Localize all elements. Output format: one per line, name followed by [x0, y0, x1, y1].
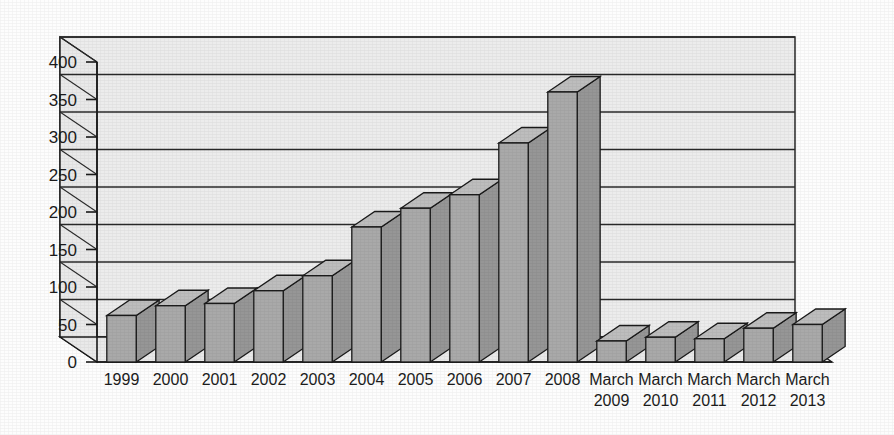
y-tick-label: 350 [49, 91, 77, 110]
x-axis-labels: 1999200020012002200320042005200620072008… [104, 371, 830, 409]
x-tick-label: 2010 [643, 392, 679, 409]
x-tick-label: 2011 [692, 392, 727, 409]
y-tick-label: 200 [49, 203, 77, 222]
y-tick-label: 0 [68, 353, 77, 372]
bar-front-face [499, 143, 528, 362]
bar-front-face [107, 316, 136, 363]
x-tick-label: 2008 [545, 371, 581, 388]
bar-column[interactable] [303, 260, 355, 362]
bar-front-face [450, 195, 479, 362]
y-tick-label: 300 [49, 128, 77, 147]
bar-front-face [156, 306, 185, 362]
x-tick-label: 2004 [349, 371, 385, 388]
bar-column[interactable] [205, 288, 257, 362]
chart-canvas: 0501001502002503003504001999200020012002… [0, 0, 894, 435]
x-tick-label: 2012 [741, 392, 777, 409]
bar-side-face [577, 77, 600, 363]
bar-front-face [303, 276, 332, 362]
bar-front-face [597, 341, 626, 362]
bar-front-face [744, 328, 773, 362]
x-tick-label: 2005 [398, 371, 434, 388]
bar-front-face [793, 325, 822, 363]
bar-front-face [548, 92, 577, 362]
bar-column[interactable] [352, 212, 404, 363]
x-tick-label: 2003 [300, 371, 336, 388]
bar-column[interactable] [254, 275, 306, 362]
plot-area: 050100150200250300350400 [49, 37, 846, 372]
x-tick-label: 1999 [104, 371, 140, 388]
bar-column[interactable] [499, 128, 551, 363]
x-tick-label: 2007 [496, 371, 532, 388]
x-tick-label: March [589, 371, 633, 388]
y-tick-label: 250 [49, 166, 77, 185]
bar-column[interactable] [156, 290, 208, 362]
bar-chart: 0501001502002503003504001999200020012002… [0, 0, 894, 435]
bar-front-face [352, 227, 381, 362]
bar-column[interactable] [401, 193, 453, 362]
bar-front-face [695, 339, 724, 362]
x-tick-label: 2000 [153, 371, 189, 388]
x-tick-label: March [736, 371, 780, 388]
y-tick-label: 400 [49, 53, 77, 72]
bar-column[interactable] [793, 309, 845, 362]
bar-front-face [646, 337, 675, 362]
x-tick-label: March [785, 371, 829, 388]
bar-column[interactable] [450, 179, 502, 362]
x-tick-label: 2002 [251, 371, 287, 388]
y-tick-label: 100 [49, 278, 77, 297]
x-tick-label: 2009 [594, 392, 630, 409]
y-tick-label: 150 [49, 241, 77, 260]
x-tick-label: March [638, 371, 682, 388]
bar-column[interactable] [548, 77, 600, 363]
x-tick-label: 2013 [790, 392, 826, 409]
bar-front-face [401, 208, 430, 362]
bar-front-face [254, 291, 283, 362]
x-tick-label: March [687, 371, 731, 388]
x-tick-label: 2006 [447, 371, 483, 388]
bar-front-face [205, 304, 234, 363]
x-tick-label: 2001 [202, 371, 238, 388]
y-tick-label: 50 [58, 316, 77, 335]
